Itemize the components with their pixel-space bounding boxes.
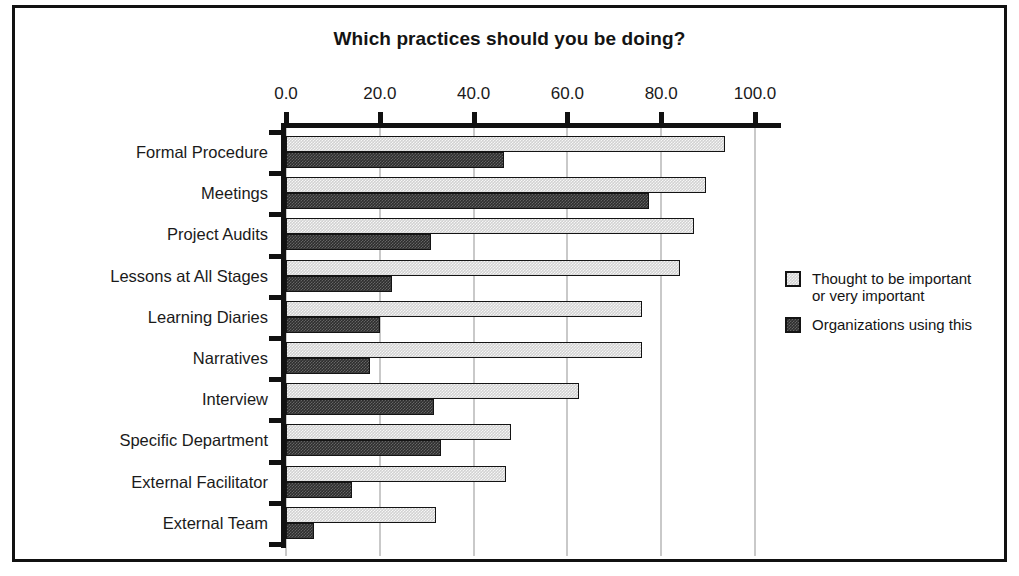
category-label-interview: Interview (202, 390, 268, 409)
category-label-external-facilitator: External Facilitator (131, 472, 268, 491)
bar-external-team-series2 (286, 523, 314, 539)
bar-external-team-series1 (286, 507, 436, 523)
bar-project-audits-series2 (286, 234, 431, 250)
x-tick-100.0 (753, 112, 758, 128)
x-tick-80.0 (659, 112, 664, 128)
category-label-learning-diaries: Learning Diaries (148, 307, 268, 326)
x-tick-20.0 (378, 112, 383, 128)
chart-legend: Thought to be important or very importan… (785, 270, 1000, 345)
y-tick-3 (269, 254, 286, 259)
x-axis-line (281, 123, 781, 128)
legend-swatch-light (785, 271, 801, 287)
legend-item-1: Thought to be important or very importan… (785, 270, 1000, 304)
y-tick-7 (269, 418, 286, 423)
bar-narratives-series1 (286, 342, 642, 358)
x-tick-label-80.0: 80.0 (645, 84, 678, 104)
chart-frame: Which practices should you be doing? 0.0… (12, 5, 1007, 562)
legend-label-1: Thought to be important or very importan… (812, 270, 971, 304)
y-tick-4 (269, 295, 286, 300)
bar-external-facilitator-series1 (286, 466, 506, 482)
y-tick-1 (269, 171, 286, 176)
legend-item-2: Organizations using this (785, 316, 1000, 333)
x-tick-label-100.0: 100.0 (734, 84, 777, 104)
x-tick-label-20.0: 20.0 (363, 84, 396, 104)
x-tick-40.0 (472, 112, 477, 128)
gridline-100.0 (754, 126, 756, 556)
bar-formal-procedure-series2 (286, 152, 504, 168)
bar-learning-diaries-series2 (286, 317, 380, 333)
bar-meetings-series1 (286, 177, 706, 193)
bar-specific-department-series2 (286, 440, 441, 456)
y-tick-8 (269, 460, 286, 465)
x-tick-label-60.0: 60.0 (551, 84, 584, 104)
bar-interview-series1 (286, 383, 579, 399)
x-tick-60.0 (565, 112, 570, 128)
bar-lessons-at-all-stages-series2 (286, 276, 392, 292)
bar-interview-series2 (286, 399, 434, 415)
legend-label-2: Organizations using this (812, 316, 972, 333)
y-tick-6 (269, 377, 286, 382)
bar-formal-procedure-series1 (286, 136, 725, 152)
bar-narratives-series2 (286, 358, 370, 374)
y-tick-10 (269, 542, 286, 547)
category-label-specific-department: Specific Department (119, 431, 268, 450)
category-label-external-team: External Team (163, 513, 268, 532)
bar-meetings-series2 (286, 193, 649, 209)
bar-project-audits-series1 (286, 218, 694, 234)
bar-external-facilitator-series2 (286, 482, 352, 498)
legend-swatch-dark (785, 317, 801, 333)
bar-specific-department-series1 (286, 424, 511, 440)
y-tick-0 (269, 130, 286, 135)
category-label-lessons-at-all-stages: Lessons at All Stages (110, 266, 268, 285)
x-tick-label-0.0: 0.0 (274, 84, 298, 104)
y-tick-9 (269, 501, 286, 506)
bar-lessons-at-all-stages-series1 (286, 260, 680, 276)
category-label-meetings: Meetings (201, 184, 268, 203)
bar-learning-diaries-series1 (286, 301, 642, 317)
y-tick-2 (269, 212, 286, 217)
x-tick-label-40.0: 40.0 (457, 84, 490, 104)
category-label-formal-procedure: Formal Procedure (136, 143, 268, 162)
x-tick-0.0 (284, 112, 289, 128)
y-tick-5 (269, 336, 286, 341)
category-label-narratives: Narratives (193, 349, 268, 368)
category-label-project-audits: Project Audits (167, 225, 268, 244)
